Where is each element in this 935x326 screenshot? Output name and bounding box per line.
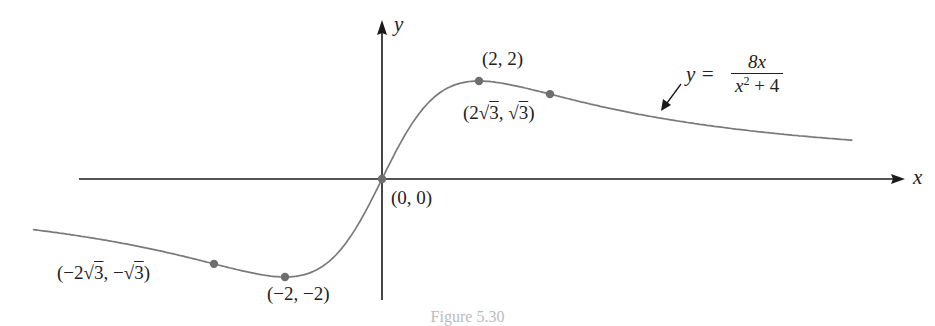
den-constant: + 4: [749, 76, 779, 97]
y-axis-arrow-icon: [377, 20, 387, 35]
equation-fraction: 8x x2 + 4: [731, 51, 783, 98]
inflection-positive-post: ): [528, 102, 534, 123]
radicand: 3: [134, 262, 144, 283]
sqrt-symbol: √: [508, 102, 518, 123]
inflection-negative-pre: (−2: [57, 262, 84, 283]
inflection-negative-post: ): [144, 262, 150, 283]
equation-lhs: y =: [686, 62, 715, 87]
inflection-negative-label: (−2√3, −√3): [57, 262, 150, 284]
point-marker: [546, 90, 554, 98]
equation-numerator: 8x: [731, 51, 783, 73]
annotation-arrowhead-icon: [661, 99, 671, 111]
inflection-positive-label: (2√3, √3): [463, 102, 535, 124]
radicand: 3: [519, 102, 529, 123]
max-point-label: (2, 2): [482, 48, 523, 70]
origin-label: (0, 0): [391, 187, 432, 209]
point-marker: [475, 77, 483, 85]
x-axis-arrow-icon: [891, 174, 905, 184]
point-marker: [210, 260, 218, 268]
sqrt-symbol: √: [84, 262, 94, 283]
sqrt-symbol: √: [124, 262, 134, 283]
separator: ,: [499, 102, 509, 123]
radicand: 3: [489, 102, 499, 123]
point-marker: [378, 175, 386, 183]
point-marker: [281, 273, 289, 281]
x-axis-label: x: [913, 165, 922, 190]
inflection-positive-pre: (2: [463, 102, 479, 123]
min-point-label: (−2, −2): [267, 283, 330, 305]
equation-denominator: x2 + 4: [731, 74, 783, 97]
y-axis-label: y: [394, 12, 403, 37]
annotation-arrow: [667, 84, 681, 103]
separator: , −: [103, 262, 123, 283]
figure-caption: Figure 5.30: [0, 308, 935, 326]
sqrt-symbol: √: [479, 102, 489, 123]
